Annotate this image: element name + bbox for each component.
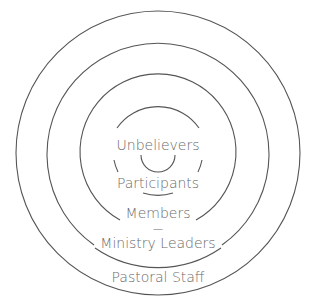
label-separator: — bbox=[153, 223, 163, 234]
ring-participants-bottom bbox=[143, 193, 173, 195]
label-pastoral-staff: Pastoral Staff bbox=[111, 269, 204, 285]
ring-unbelievers bbox=[141, 155, 175, 172]
label-unbelievers: Unbelievers bbox=[117, 137, 200, 153]
concentric-circles-diagram: Unbelievers Participants Members — Minis… bbox=[0, 0, 318, 308]
ring-participants-top bbox=[117, 107, 199, 128]
ring-participants-right bbox=[198, 160, 202, 172]
label-ministry-leaders: Ministry Leaders bbox=[100, 235, 215, 251]
label-participants: Participants bbox=[117, 175, 199, 191]
label-members: Members bbox=[126, 205, 191, 221]
ring-pastoral-staff bbox=[16, 11, 300, 295]
ring-participants-left bbox=[114, 160, 118, 172]
